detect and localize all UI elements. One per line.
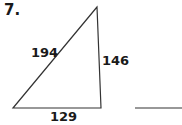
side-label-base: 129: [50, 109, 77, 124]
triangle-figure: [0, 0, 182, 125]
side-label-hypotenuse: 194: [31, 45, 58, 60]
side-label-vertical: 146: [102, 53, 129, 68]
